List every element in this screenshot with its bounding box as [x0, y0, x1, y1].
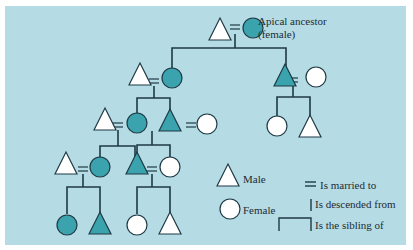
apical-ancestor-label: Apical ancestor [258, 15, 327, 27]
legend-married-label: Is married to [320, 179, 376, 191]
legend-female-label: Female [243, 204, 275, 216]
kinship-chart [0, 0, 413, 250]
legend-descended-label: Is descended from [315, 198, 396, 210]
apical-ancestor-sublabel: (female) [258, 28, 295, 40]
legend-sibling-label: Is the sibling of [315, 219, 384, 231]
legend-male-label: Male [243, 173, 266, 185]
legend-female-icon [220, 199, 240, 219]
legend-male-icon [217, 164, 239, 186]
male-symbol [209, 18, 231, 40]
